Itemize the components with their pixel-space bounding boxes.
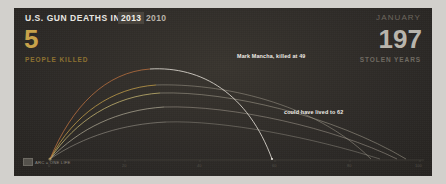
- arc-victim-4-stolen: [164, 107, 397, 159]
- legend-badge: ARC = ONE LIFE: [23, 158, 71, 166]
- gun-deaths-visualization: U.S. GUN DEATHS IN 2013 2010 JANUARY 5 P…: [14, 8, 432, 176]
- arc-victim-5-stolen: [166, 122, 380, 159]
- people-killed-label: PEOPLE KILLED: [25, 56, 88, 63]
- death-marker: [271, 158, 273, 160]
- axis-tick-100: 100: [415, 163, 422, 168]
- legend-label: ARC = ONE LIFE: [35, 160, 71, 165]
- axis-tick-60: 60: [272, 163, 276, 168]
- arc-victim-2-lived: [50, 85, 156, 159]
- month-label: JANUARY: [376, 13, 421, 22]
- x-axis-ticks: [50, 160, 420, 162]
- annotation-could-have-lived: could have lived to 62: [284, 109, 343, 115]
- arc-victim-5-lived: [50, 122, 166, 159]
- axis-tick-80: 80: [347, 163, 351, 168]
- annotation-killed: Mark Mancha, killed at 49: [237, 53, 305, 59]
- header: U.S. GUN DEATHS IN 2013 2010 JANUARY: [14, 8, 432, 30]
- stolen-years-label: STOLEN YEARS: [360, 56, 421, 63]
- year-toggle-2010[interactable]: 2010: [143, 12, 169, 24]
- arc-chart-svg: [14, 66, 432, 176]
- axis-tick-20: 20: [122, 163, 126, 168]
- year-toggle-2013[interactable]: 2013: [118, 12, 144, 24]
- stolen-years-value: 197: [379, 26, 422, 52]
- screenshot-frame: U.S. GUN DEATHS IN 2013 2010 JANUARY 5 P…: [0, 0, 446, 184]
- arc-victim-1-stolen: [150, 69, 272, 159]
- arc-chart: 0 20 40 60 80 100 ARC = ONE LIFE: [14, 66, 432, 176]
- page-title: U.S. GUN DEATHS IN: [25, 13, 120, 23]
- legend-swatch-icon: [23, 158, 33, 166]
- people-killed-value: 5: [24, 26, 38, 52]
- axis-tick-40: 40: [197, 163, 201, 168]
- arc-victim-3-stolen: [160, 93, 406, 159]
